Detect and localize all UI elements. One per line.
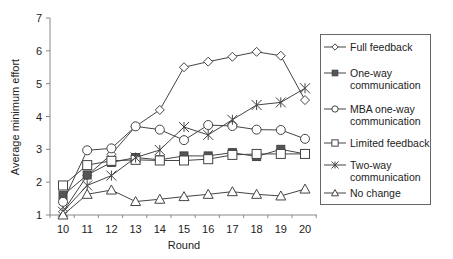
legend-label: No change [350,187,401,199]
filled-square-marker-icon [323,67,347,79]
x-tick-label: 17 [226,223,238,235]
legend-item-mba-one-way-communication: MBA one-way communication [321,103,421,127]
x-tick-label: 12 [105,223,117,235]
series-limited-feedback [59,149,310,190]
legend-item-no-change: No change [321,187,401,199]
legend: Full feedback One-way communication MBA … [320,34,431,205]
legend-item-one-way-communication: One-way communication [321,67,421,91]
y-tick-label: 2 [36,176,42,188]
legend-label: Full feedback [350,41,412,53]
x-tick-label: 14 [154,223,166,235]
triangle-marker-icon [323,187,347,199]
y-tick-label: 4 [36,111,42,123]
series-no-change [58,184,310,219]
legend-label: Two-way communication [350,159,421,183]
legend-item-two-way-communication: Two-way communication [321,159,421,183]
x-axis-title: Round [168,239,200,251]
x-tick-label: 13 [129,223,141,235]
x-tick-label: 10 [57,223,69,235]
legend-label: One-way communication [350,67,421,91]
x-tick-label: 20 [299,223,311,235]
legend-item-full-feedback: Full feedback [321,41,412,53]
open-square-marker-icon [323,137,347,149]
y-tick-label: 6 [36,45,42,57]
y-tick-label: 3 [36,143,42,155]
x-tick-label: 19 [275,223,287,235]
y-tick-label: 7 [36,12,42,24]
circle-marker-icon [323,103,347,115]
asterisk-marker-icon [323,159,347,171]
legend-label: Limited feedback [350,137,429,149]
y-tick-label: 1 [36,209,42,221]
legend-label: MBA one-way communication [350,103,421,127]
legend-item-limited-feedback: Limited feedback [321,137,429,149]
x-tick-label: 18 [250,223,262,235]
x-tick-label: 15 [178,223,190,235]
x-tick-label: 16 [202,223,214,235]
y-axis-title: Average minimum effort [9,59,21,175]
diamond-marker-icon [323,41,347,53]
x-tick-label: 11 [81,223,92,235]
y-tick-label: 5 [36,78,42,90]
